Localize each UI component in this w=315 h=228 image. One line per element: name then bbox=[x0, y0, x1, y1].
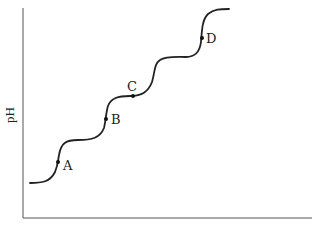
point-a-marker bbox=[56, 160, 60, 164]
point-b-marker bbox=[104, 117, 108, 121]
point-b-label: B bbox=[111, 112, 121, 127]
chart-svg: A B C D bbox=[0, 0, 315, 228]
point-c-marker bbox=[131, 94, 135, 98]
point-d-marker bbox=[200, 36, 204, 40]
point-a-label: A bbox=[62, 158, 73, 173]
titration-curve bbox=[30, 9, 229, 183]
point-c-label: C bbox=[127, 79, 137, 94]
point-d-label: D bbox=[206, 31, 216, 46]
y-axis-label: pH bbox=[0, 105, 25, 125]
titration-chart: A B C D pH bbox=[0, 0, 315, 228]
